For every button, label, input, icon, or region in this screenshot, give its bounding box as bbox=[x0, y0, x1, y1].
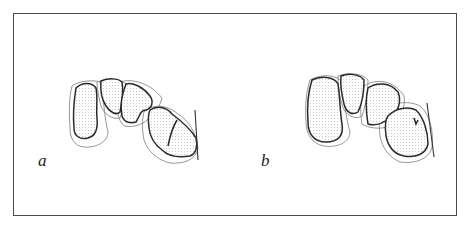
tooth-b-2 bbox=[341, 74, 364, 113]
tooth-b-4 bbox=[385, 108, 428, 157]
tooth-a-4-5 bbox=[148, 107, 196, 156]
tooth-b-1 bbox=[308, 77, 343, 142]
dental-arch-diagram bbox=[0, 0, 470, 226]
panel-label-a: a bbox=[38, 152, 47, 169]
panel-a-drawing bbox=[69, 79, 198, 163]
reference-line-b bbox=[427, 103, 434, 157]
tooth-a-1 bbox=[74, 84, 98, 139]
tooth-a-3 bbox=[121, 84, 152, 123]
panel-label-b: b bbox=[261, 152, 270, 169]
panel-b-drawing bbox=[306, 74, 434, 163]
